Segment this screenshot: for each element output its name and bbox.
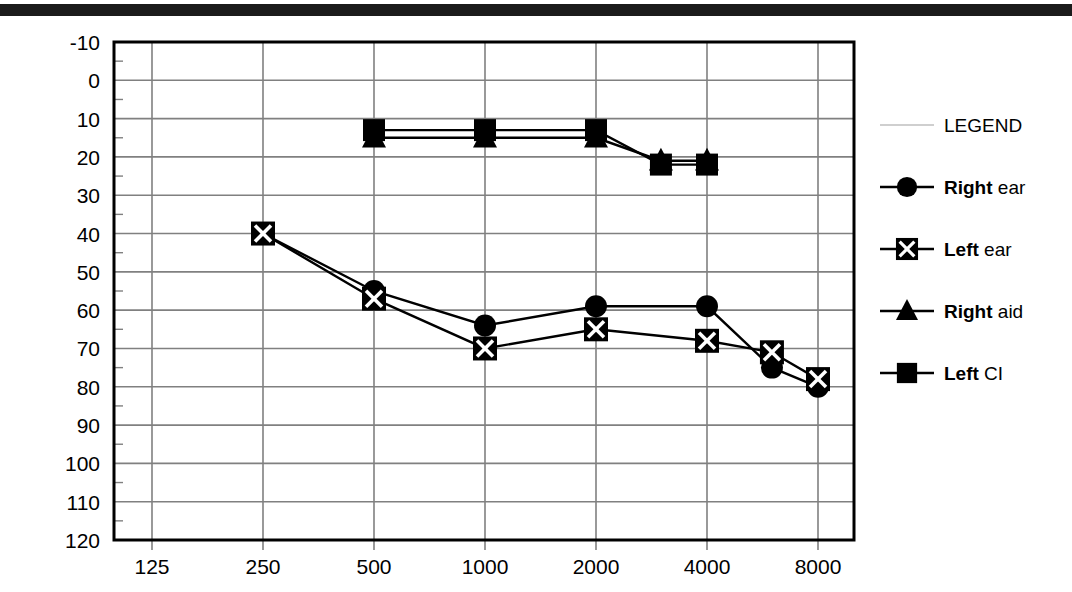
y-axis-tick-labels: -100102030405060708090100110120 [65, 31, 100, 552]
x-tick-label: 500 [356, 555, 391, 578]
audiogram-chart: -100102030405060708090100110120 12525050… [0, 0, 1072, 592]
data-point-x-in-square [760, 340, 784, 364]
legend-entry-label: Left ear [944, 239, 1012, 260]
x-tick-label: 1000 [462, 555, 509, 578]
data-point-x-in-square [896, 238, 918, 260]
legend-entry-label: Right ear [944, 177, 1026, 198]
y-tick-label: 50 [77, 261, 100, 284]
plot-area-frame [114, 42, 854, 540]
data-point-filled-square [696, 154, 718, 176]
x-axis-tick-labels: 1252505001000200040008000 [134, 555, 841, 578]
data-point-x-in-square [806, 367, 830, 391]
data-point-filled-circle [585, 295, 607, 317]
data-point-x-in-square [251, 222, 275, 246]
data-point-filled-square [474, 119, 496, 141]
chart-legend: LEGENDRight earLeft earRight aidLeft CI [880, 115, 1026, 384]
data-point-filled-circle [474, 314, 496, 336]
y-tick-label: 0 [88, 69, 100, 92]
y-tick-label: -10 [70, 31, 100, 54]
data-point-x-in-square [362, 287, 386, 311]
y-tick-label: 90 [77, 414, 100, 437]
x-tick-label: 2000 [573, 555, 620, 578]
y-tick-label: 40 [77, 223, 100, 246]
x-tick-label: 250 [245, 555, 280, 578]
data-point-filled-square [650, 154, 672, 176]
y-tick-label: 60 [77, 299, 100, 322]
series-markers [251, 119, 830, 398]
y-tick-label: 100 [65, 452, 100, 475]
x-tick-label: 8000 [795, 555, 842, 578]
y-tick-label: 120 [65, 529, 100, 552]
legend-entry-label: Left CI [944, 363, 1003, 384]
legend-header-label: LEGEND [944, 115, 1022, 136]
chart-gridlines [114, 42, 854, 550]
y-tick-label: 20 [77, 146, 100, 169]
audiogram-page: -100102030405060708090100110120 12525050… [0, 0, 1072, 592]
x-tick-label: 125 [134, 555, 169, 578]
data-point-filled-square [897, 363, 917, 383]
data-point-filled-circle [897, 177, 917, 197]
data-point-x-in-square [473, 336, 497, 360]
data-point-x-in-square [695, 329, 719, 353]
data-point-filled-square [585, 119, 607, 141]
series-line [263, 234, 818, 380]
y-tick-label: 80 [77, 376, 100, 399]
y-tick-label: 10 [77, 108, 100, 131]
data-point-x-in-square [584, 317, 608, 341]
x-tick-label: 4000 [684, 555, 731, 578]
legend-entry-label: Right aid [944, 301, 1023, 322]
y-tick-label: 70 [77, 337, 100, 360]
data-point-filled-circle [696, 295, 718, 317]
y-tick-label: 110 [67, 491, 100, 514]
data-point-filled-square [363, 119, 385, 141]
data-point-filled-triangle [896, 299, 918, 320]
y-tick-label: 30 [77, 184, 100, 207]
